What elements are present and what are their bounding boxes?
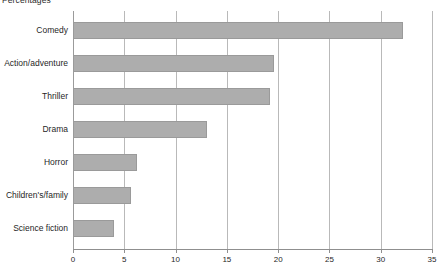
x-tick-label-35: 35 [428,255,437,265]
x-tick-label-25: 25 [325,255,334,265]
gridline-35 [432,11,433,249]
x-tick-mark-0 [73,249,74,253]
gridline-30 [381,11,382,249]
bar-children-s-family [73,187,131,204]
x-tick-label-15: 15 [222,255,231,265]
x-tick-mark-10 [176,249,177,253]
x-tick-mark-5 [124,249,125,253]
x-tick-mark-35 [432,249,433,253]
bar-drama [73,121,207,138]
gridline-20 [278,11,279,249]
gridline-25 [329,11,330,249]
bar-comedy [73,22,403,39]
y-axis-label-action-adventure: Action/adventure [4,58,68,69]
x-tick-mark-25 [329,249,330,253]
x-tick-mark-20 [278,249,279,253]
bar-horror [73,154,137,171]
y-axis-label-childrens-family: Children's/family [6,190,68,201]
y-axis-label-science-fiction: Science fiction [13,223,68,234]
x-axis-line [73,249,433,250]
y-axis-label-horror: Horror [44,157,68,168]
x-tick-label-0: 0 [71,255,75,265]
y-axis-labels: Comedy Action/adventure Thriller Drama H… [0,0,68,269]
bar-science-fiction [73,220,114,237]
x-tick-label-20: 20 [274,255,283,265]
x-tick-mark-30 [381,249,382,253]
bar-chart: Percentages Comedy Action/adventure Thri… [0,0,445,269]
plot-area [73,11,432,249]
y-axis-label-thriller: Thriller [42,91,68,102]
bar-action-adventure [73,55,274,72]
y-axis-label-comedy: Comedy [36,25,68,36]
x-tick-mark-15 [227,249,228,253]
y-axis-label-drama: Drama [42,124,68,135]
x-tick-label-5: 5 [122,255,126,265]
x-tick-label-10: 10 [171,255,180,265]
x-tick-label-30: 30 [376,255,385,265]
bar-thriller [73,88,270,105]
gridline-15 [227,11,228,249]
